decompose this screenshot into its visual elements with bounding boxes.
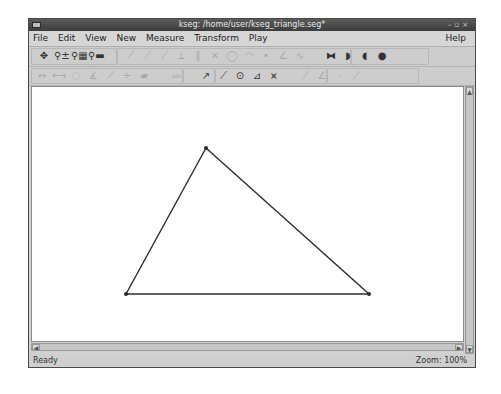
point-A[interactable] bbox=[204, 146, 208, 150]
point-B[interactable] bbox=[124, 292, 128, 296]
segment-AB[interactable] bbox=[126, 148, 206, 294]
point-C[interactable] bbox=[367, 292, 371, 296]
triangle-drawing[interactable] bbox=[0, 0, 501, 394]
segment-CA[interactable] bbox=[206, 148, 369, 294]
